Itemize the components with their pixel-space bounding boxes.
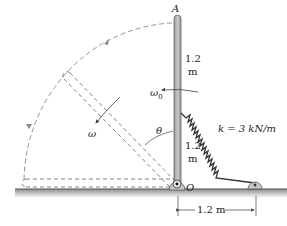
label-upper-length: 1.2 — [185, 53, 201, 64]
omega-arrow — [96, 97, 120, 123]
label-theta: θ — [156, 125, 162, 136]
label-spring-constant: k = 3 kN/m — [218, 123, 276, 134]
label-lower-length: 1.2 — [185, 140, 201, 151]
label-A: A — [171, 3, 179, 14]
trajectory-arc — [24, 23, 172, 180]
pendulum-spring-diagram: A O 1.2 m 1.2 m ω0 ω θ k = 3 kN/m 1.2 m — [0, 0, 287, 226]
label-lower-length-unit: m — [188, 153, 198, 164]
ground — [15, 189, 287, 198]
arc-direction-arrow-2 — [26, 124, 32, 129]
spring-support-pivot — [248, 182, 262, 189]
bar-OA — [174, 15, 181, 187]
label-O: O — [186, 182, 194, 193]
label-omega: ω — [88, 128, 96, 139]
label-base-distance: 1.2 m — [197, 204, 226, 215]
label-omega0: ω0 — [150, 87, 163, 101]
pivot-O — [169, 180, 185, 190]
label-upper-length-unit: m — [188, 66, 198, 77]
bar-horizontal-position — [22, 179, 174, 187]
arc-direction-arrow-1 — [104, 39, 109, 45]
